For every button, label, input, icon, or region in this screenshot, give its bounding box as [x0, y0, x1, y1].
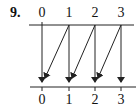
bottom-label-1: 1 [66, 93, 73, 107]
bottom-label-0: 0 [39, 93, 46, 107]
bottom-label-2: 2 [92, 93, 99, 107]
bottom-label-3: 3 [118, 93, 125, 107]
arrow-3-to-2 [98, 25, 121, 78]
arrow-1-to-0 [45, 25, 69, 78]
arrow-2-to-1 [72, 25, 95, 78]
